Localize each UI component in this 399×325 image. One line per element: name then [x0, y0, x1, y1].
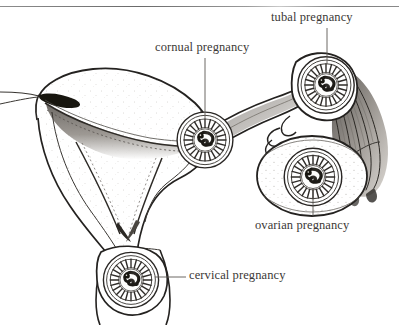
label-cornual-pregnancy: cornual pregnancy [155, 41, 249, 54]
illustration-page: tubal pregnancy cornual pregnancy ovaria… [0, 0, 399, 325]
gestation-cervical [97, 246, 168, 315]
label-cervical-pregnancy: cervical pregnancy [189, 269, 286, 282]
gestation-tubal [292, 53, 358, 120]
label-tubal-pregnancy: tubal pregnancy [271, 11, 353, 24]
gestation-cornual [177, 112, 233, 168]
label-ovarian-pregnancy: ovarian pregnancy [255, 219, 349, 232]
